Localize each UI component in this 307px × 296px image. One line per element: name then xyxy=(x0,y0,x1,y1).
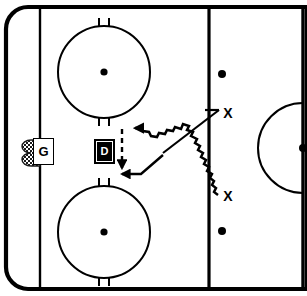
player-marker-attacker-top[interactable]: X xyxy=(221,104,235,121)
player-marker-attacker-bottom[interactable]: X xyxy=(221,187,235,204)
neutral-dot-top xyxy=(218,70,226,78)
center-ice-dot xyxy=(299,144,307,152)
rink-diagram-canvas: G D X X xyxy=(0,0,307,296)
attacker-top-label: X xyxy=(223,106,232,120)
neutral-dot-bottom xyxy=(218,227,226,235)
defense-inner-box: D xyxy=(96,141,113,162)
faceoff-dot-top xyxy=(100,68,107,75)
attacker-bottom-label: X xyxy=(223,189,232,203)
faceoff-dot-bottom xyxy=(100,228,107,235)
goalie-label: G xyxy=(38,145,48,158)
player-marker-goalie[interactable]: G xyxy=(33,138,54,165)
player-marker-defense[interactable]: D xyxy=(94,139,115,164)
defense-label: D xyxy=(101,146,109,157)
